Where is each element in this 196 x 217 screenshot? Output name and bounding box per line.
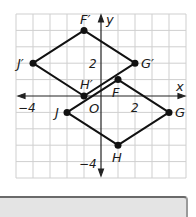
point-J — [64, 109, 71, 116]
label-H-prime: H′ — [80, 77, 93, 92]
point-F-prime — [81, 27, 88, 34]
y-axis-down-arrow-icon — [99, 169, 104, 176]
tick-x-2: 2 — [131, 101, 139, 115]
tick-y-2: 2 — [89, 57, 97, 71]
x-axis-left-arrow-icon — [18, 94, 25, 99]
label-H: H — [112, 150, 122, 165]
answer-box — [0, 196, 188, 217]
point-F — [115, 76, 122, 83]
tick-x-neg4: −4 — [18, 101, 36, 115]
label-G: G — [175, 105, 185, 120]
y-axis-up-arrow-icon — [99, 15, 104, 22]
x-axis-right-arrow-icon — [178, 94, 185, 99]
point-H — [115, 142, 122, 149]
label-J-prime: J′ — [14, 56, 24, 71]
label-G-prime: G′ — [141, 56, 154, 71]
tick-y-neg4: −4 — [79, 157, 97, 171]
point-H-prime — [81, 93, 88, 100]
label-F: F — [112, 85, 120, 100]
x-axis-label: x — [175, 79, 184, 94]
coordinate-plane: y x O −4 2 2 −4 F′ J′ G′ H′ F G J H — [0, 0, 196, 196]
label-F-prime: F′ — [80, 12, 90, 27]
point-J-prime — [30, 60, 37, 67]
y-axis-label: y — [105, 12, 114, 27]
point-G — [166, 109, 173, 116]
origin-label: O — [89, 101, 99, 116]
point-G-prime — [132, 60, 139, 67]
